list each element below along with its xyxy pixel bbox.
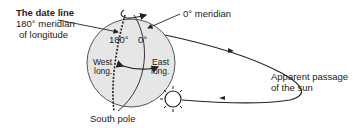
east-label-2: long.	[151, 67, 169, 76]
west-label-2: long.	[94, 67, 112, 76]
date-line-desc-2: of longitude	[19, 29, 68, 40]
deg0-label: 0°	[138, 34, 147, 45]
zero-meridian-label: 0° meridian	[183, 8, 231, 19]
deg180-label: 180°	[109, 34, 129, 45]
sun-path-label-1: Apparent passage	[271, 71, 348, 82]
date-line-desc-1: 180° meridian	[16, 18, 75, 29]
sun-path-label-2: of the sun	[271, 82, 313, 93]
date-line-title: The date line	[16, 7, 74, 18]
south-pole-label: South pole	[90, 113, 135, 124]
